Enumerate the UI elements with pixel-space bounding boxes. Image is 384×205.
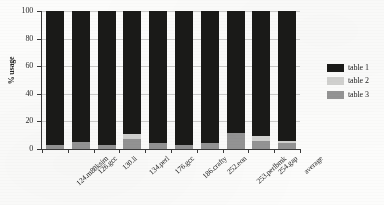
bar-segment — [149, 143, 167, 149]
x-tick-mark — [119, 150, 120, 153]
bar-segment — [252, 136, 270, 142]
legend-swatch — [327, 64, 344, 72]
bar-segment — [278, 143, 296, 149]
bar-segment — [46, 145, 64, 149]
bar-chart-figure: % usage 020406080100 124.m88ksim126.gcc1… — [0, 0, 384, 205]
x-tick-label: 134.perl — [147, 154, 171, 177]
x-tick-label: 252.eon — [225, 154, 248, 176]
bar-group — [175, 11, 193, 149]
bar-segment — [123, 134, 141, 140]
bar-segment — [252, 141, 270, 149]
bar-group — [201, 11, 219, 149]
x-tick-mark — [274, 150, 275, 153]
chart-legend: table 1table 2table 3 — [327, 62, 383, 103]
x-tick-mark — [171, 150, 172, 153]
bar-segment — [175, 145, 193, 149]
bar-group — [46, 11, 64, 149]
y-tick-label: 20 — [9, 117, 33, 125]
bar-segment — [227, 11, 245, 133]
bar-group — [72, 11, 90, 149]
x-tick-label: 186.crafty — [200, 154, 228, 180]
x-tick-label: 130.li — [120, 154, 138, 172]
x-tick-mark — [94, 150, 95, 153]
legend-swatch — [327, 91, 344, 99]
x-tick-mark — [197, 150, 198, 153]
legend-item: table 2 — [327, 76, 383, 87]
bar-group — [98, 11, 116, 149]
bar-segment — [46, 11, 64, 145]
y-tick-label: 0 — [9, 145, 33, 153]
bar-segment — [149, 11, 167, 143]
bar-group — [252, 11, 270, 149]
bar-segment — [98, 145, 116, 149]
x-tick-label: 176.gcc — [173, 154, 196, 176]
legend-label: table 2 — [348, 77, 369, 85]
bar-segment — [278, 11, 296, 141]
y-tick-label: 60 — [9, 62, 33, 70]
plot-area — [42, 11, 300, 149]
bar-segment — [72, 142, 90, 149]
bar-group — [227, 11, 245, 149]
bar-segment — [278, 141, 296, 143]
legend-label: table 3 — [348, 91, 369, 99]
bar-segment — [123, 11, 141, 134]
bar-segment — [175, 11, 193, 145]
x-tick-mark — [68, 150, 69, 153]
x-tick-mark — [248, 150, 249, 153]
bar-segment — [98, 11, 116, 145]
legend-item: table 1 — [327, 62, 383, 73]
x-tick-mark — [145, 150, 146, 153]
x-tick-mark — [42, 150, 43, 153]
y-tick-label: 100 — [9, 7, 33, 15]
legend-item: table 3 — [327, 89, 383, 100]
x-tick-mark — [300, 150, 301, 153]
legend-swatch — [327, 77, 344, 85]
legend-label: table 1 — [348, 64, 369, 72]
y-tick-label: 40 — [9, 90, 33, 98]
bar-segment — [123, 139, 141, 149]
x-tick-label: average — [302, 154, 325, 176]
bar-group — [149, 11, 167, 149]
bar-segment — [201, 11, 219, 143]
bar-segment — [201, 143, 219, 149]
bar-segment — [72, 11, 90, 142]
bar-segment — [252, 11, 270, 136]
bar-segment — [227, 133, 245, 149]
y-tick-label: 80 — [9, 35, 33, 43]
bar-group — [123, 11, 141, 149]
bar-group — [278, 11, 296, 149]
